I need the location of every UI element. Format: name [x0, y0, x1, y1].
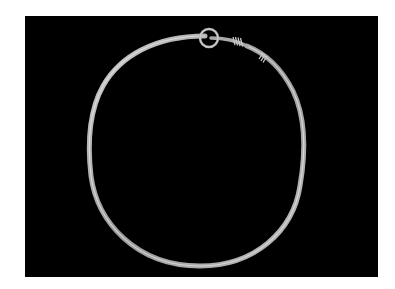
neck-ring-illustration	[25, 16, 378, 277]
ring-body	[89, 36, 303, 266]
photo-frame	[25, 16, 378, 277]
